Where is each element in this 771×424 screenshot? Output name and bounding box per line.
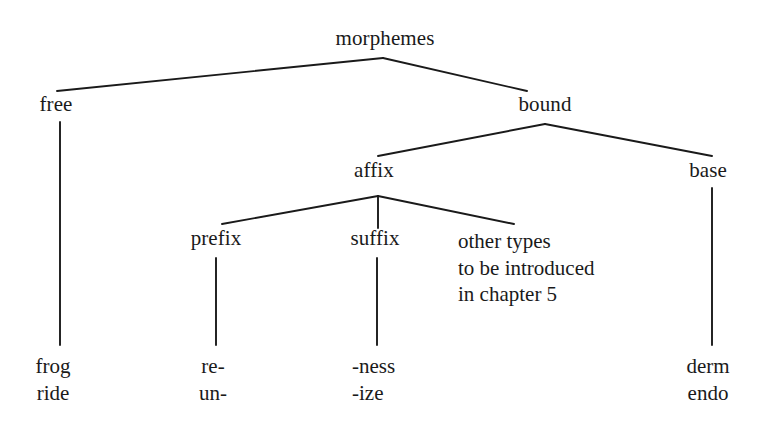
edge-morphemes-to-free	[57, 58, 383, 91]
other-types-line-3: in chapter 5	[458, 281, 594, 308]
node-base: base	[689, 160, 727, 181]
leaf-free-examples: frog ride	[36, 353, 71, 407]
leaf-item: ride	[36, 380, 71, 407]
morpheme-tree-diagram: morphemes free bound affix base prefix s…	[0, 0, 771, 424]
leaf-prefix-examples: re- un-	[199, 353, 227, 407]
edge-affix-to-prefix	[222, 196, 378, 224]
leaf-suffix-examples: -ness -ize	[352, 353, 395, 407]
edge-bound-to-base	[545, 124, 712, 156]
edge-affix-to-other-types	[378, 196, 514, 224]
leaf-base-examples: derm endo	[686, 353, 729, 407]
leaf-item: re-	[199, 353, 227, 380]
leaf-item: un-	[199, 380, 227, 407]
leaf-item: endo	[686, 380, 729, 407]
other-types-line-2: to be introduced	[458, 255, 594, 282]
node-free: free	[39, 94, 72, 115]
node-bound: bound	[519, 94, 572, 115]
node-affix: affix	[354, 160, 394, 181]
edge-bound-to-affix	[378, 124, 545, 156]
node-suffix: suffix	[350, 228, 399, 249]
node-prefix: prefix	[191, 228, 242, 249]
leaf-item: derm	[686, 353, 729, 380]
other-types-line-1: other types	[458, 228, 594, 255]
edge-morphemes-to-bound	[383, 58, 527, 91]
leaf-item: -ize	[352, 380, 395, 407]
leaf-item: -ness	[352, 353, 395, 380]
leaf-item: frog	[36, 353, 71, 380]
node-other-types: other types to be introduced in chapter …	[458, 228, 594, 308]
node-morphemes: morphemes	[336, 28, 435, 49]
